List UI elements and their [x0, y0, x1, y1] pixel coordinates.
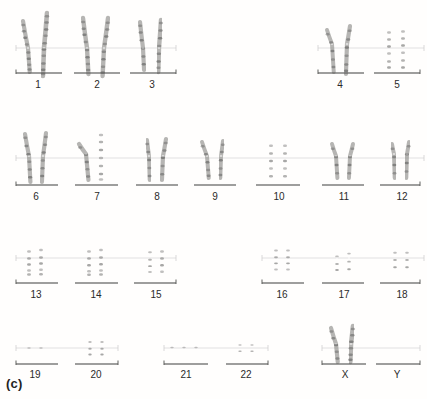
- chromosome-band: [27, 273, 31, 276]
- chromosome-band: [26, 153, 30, 156]
- chromosome-band: [39, 269, 43, 272]
- chromosome-band: [142, 63, 146, 66]
- chromosome-band: [42, 151, 46, 154]
- centromere: [388, 41, 391, 43]
- chromosome-band: [159, 22, 163, 25]
- chromosome-band: [85, 49, 89, 52]
- chromosome-band: [404, 170, 408, 173]
- chromosome-band: [221, 143, 225, 146]
- chromosome-band: [405, 252, 409, 254]
- chromosome-band: [283, 145, 287, 148]
- chromosome-band: [274, 269, 278, 271]
- chromosome-band: [283, 160, 287, 163]
- chromosome-band: [141, 55, 145, 58]
- chromosome-band: [401, 44, 405, 47]
- centromere: [220, 155, 223, 157]
- chromosome-number-label: 11: [339, 191, 350, 202]
- chromosome-band: [86, 69, 90, 72]
- chromosome-band: [138, 25, 142, 28]
- chromosome-band: [43, 34, 48, 37]
- chromosome-band: [39, 256, 43, 259]
- chromosome-band: [160, 165, 164, 168]
- chromosome: [99, 245, 103, 276]
- chromosome-band: [139, 39, 143, 42]
- chromosome-band: [393, 266, 397, 268]
- chromosome-band: [88, 341, 91, 343]
- chromosome-band: [146, 151, 150, 154]
- chromosome-number-label: Y: [394, 369, 401, 380]
- chromosome-band: [348, 30, 352, 33]
- chromosome-band: [206, 169, 210, 172]
- chromosome: [393, 248, 397, 272]
- centromere: [336, 257, 338, 259]
- chromosome-band: [238, 344, 241, 346]
- chromosome-band: [160, 271, 164, 274]
- chromosome-number-label: 13: [30, 289, 42, 300]
- chromosome-number-label: 12: [396, 191, 408, 202]
- chromosome: [401, 28, 405, 72]
- centromere: [349, 343, 352, 345]
- chromosome-band: [27, 257, 31, 260]
- chromosome-band: [274, 250, 278, 252]
- chromosome-band: [27, 161, 31, 164]
- chromosome-band: [88, 348, 91, 350]
- chromosome-band: [405, 259, 409, 261]
- chromosome-band: [157, 53, 161, 56]
- chromosome-band: [147, 159, 151, 162]
- chromosome: [27, 246, 31, 276]
- chromosome-band: [24, 145, 28, 148]
- chromosome-number-label: 19: [29, 369, 41, 380]
- chromosome-band: [27, 269, 31, 272]
- chromosome-band: [219, 159, 223, 162]
- centromere: [158, 47, 161, 49]
- panel-label: (c): [6, 376, 23, 391]
- chromosome-number-label: 1: [35, 79, 41, 90]
- chromosome-band: [393, 172, 397, 175]
- chromosome-band: [269, 175, 273, 178]
- chromosome-number-label: 14: [90, 289, 102, 300]
- chromosome-band: [348, 354, 353, 357]
- chromosome-band: [28, 168, 32, 171]
- chromosome-band: [39, 347, 42, 349]
- chromosome-band: [170, 347, 173, 349]
- chromosome-band: [331, 58, 335, 61]
- chromosome: [39, 342, 42, 354]
- chromosome: [274, 246, 278, 274]
- chromosome-band: [103, 43, 107, 46]
- chromosome-band: [393, 259, 397, 261]
- chromosome-band: [335, 255, 339, 257]
- chromosome-band: [335, 172, 339, 175]
- chromosome-band: [148, 271, 152, 273]
- chromosome-band: [99, 157, 103, 160]
- chromosome: [170, 343, 173, 352]
- chromosome-band: [387, 66, 391, 69]
- chromosome-band: [83, 41, 87, 44]
- chromosome-band: [42, 42, 47, 45]
- chromosome-band: [82, 34, 86, 37]
- chromosome-band: [45, 15, 50, 18]
- chromosome-band: [23, 37, 27, 40]
- chromosome-band: [41, 62, 46, 65]
- chromosome-band: [335, 357, 339, 360]
- chromosome: [87, 246, 91, 276]
- chromosome-band: [85, 168, 89, 171]
- chromosome-band: [407, 145, 411, 148]
- chromosome-band: [335, 164, 339, 167]
- chromosome-band: [269, 160, 273, 163]
- chromosome-band: [160, 257, 164, 260]
- chromosome-band: [148, 251, 152, 253]
- chromosome-band: [85, 161, 89, 164]
- chromosome-band: [22, 30, 26, 33]
- centromere: [40, 251, 43, 253]
- chromosome: [160, 246, 164, 276]
- chromosome-band: [334, 344, 338, 347]
- chromosome-band: [100, 354, 103, 356]
- chromosome-band: [40, 175, 44, 178]
- chromosome-number-label: 9: [212, 191, 218, 202]
- chromosome-band: [148, 265, 152, 267]
- chromosome-band: [401, 51, 405, 54]
- chromosome-number-label: 21: [180, 369, 192, 380]
- chromosome-band: [330, 50, 334, 53]
- chromosome-band: [194, 347, 197, 349]
- chromosome-number-label: 10: [273, 191, 285, 202]
